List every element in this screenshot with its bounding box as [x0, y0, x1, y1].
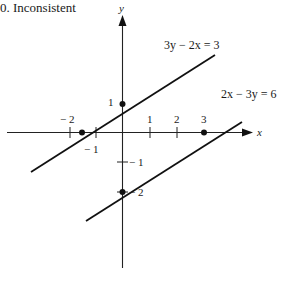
point-x-intercept-upper	[79, 130, 85, 136]
point-y-intercept-lower	[120, 189, 126, 195]
equation-label-upper: 3y − 2x = 3	[164, 38, 220, 52]
tick-label-x-3: 3	[201, 113, 207, 125]
tick-label-x-minus-2: − 2	[60, 113, 74, 125]
x-axis-label: x	[256, 126, 262, 138]
equation-label-lower: 2x − 3y = 6	[221, 87, 277, 101]
graph: x y − 2 − 1 1 2 3 1 − 1 − 2 3y − 2x = 3 …	[0, 0, 284, 282]
line-2x-minus-3y-eq-6	[86, 122, 242, 221]
tick-label-x-2: 2	[174, 113, 180, 125]
x-axis-arrow-icon	[242, 129, 253, 137]
y-axis-label: y	[118, 2, 124, 14]
point-y-intercept-upper	[120, 101, 126, 107]
y-axis-arrow-icon	[119, 15, 127, 26]
tick-label-y-minus-2: − 2	[129, 186, 143, 198]
point-x-intercept-lower	[201, 130, 207, 136]
tick-label-y-1: 1	[108, 96, 114, 108]
tick-label-x-1: 1	[147, 113, 153, 125]
tick-label-x-minus-1: − 1	[84, 143, 98, 155]
tick-label-y-minus-1: − 1	[129, 156, 143, 168]
